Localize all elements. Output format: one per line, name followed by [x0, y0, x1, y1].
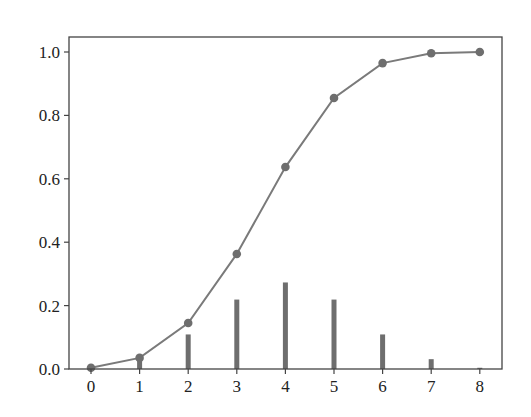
pmf-bar: [380, 334, 385, 369]
y-tick-label: 0.2: [39, 297, 60, 316]
y-tick-label: 0.0: [39, 360, 60, 379]
pmf-bar: [332, 300, 337, 369]
x-axis: 012345678: [87, 369, 484, 396]
cdf-point: [476, 48, 485, 57]
x-tick-label: 3: [233, 377, 242, 396]
pmf-bar: [234, 300, 239, 369]
cdf-point: [281, 163, 290, 172]
cdf-point: [378, 59, 387, 68]
cdf-point: [184, 319, 193, 328]
x-tick-label: 6: [378, 377, 387, 396]
cdf-point: [135, 354, 144, 363]
chart: 0.00.20.40.60.81.0 012345678: [0, 0, 531, 417]
y-tick-label: 0.4: [39, 233, 61, 252]
y-axis: 0.00.20.40.60.81.0: [39, 43, 69, 379]
x-tick-label: 8: [476, 377, 485, 396]
y-tick-label: 0.8: [39, 106, 60, 125]
x-tick-label: 0: [87, 377, 96, 396]
cdf-point: [427, 49, 436, 58]
x-tick-label: 7: [427, 377, 436, 396]
x-tick-label: 2: [184, 377, 193, 396]
pmf-bars: [89, 282, 483, 369]
cdf-point: [233, 250, 242, 259]
x-tick-label: 4: [281, 377, 290, 396]
pmf-bar: [186, 334, 191, 369]
pmf-bar: [429, 359, 434, 369]
pmf-bar: [283, 282, 288, 369]
y-tick-label: 1.0: [39, 43, 60, 62]
y-tick-label: 0.6: [39, 170, 60, 189]
x-tick-label: 5: [330, 377, 339, 396]
x-tick-label: 1: [135, 377, 144, 396]
cdf-point: [330, 94, 339, 103]
